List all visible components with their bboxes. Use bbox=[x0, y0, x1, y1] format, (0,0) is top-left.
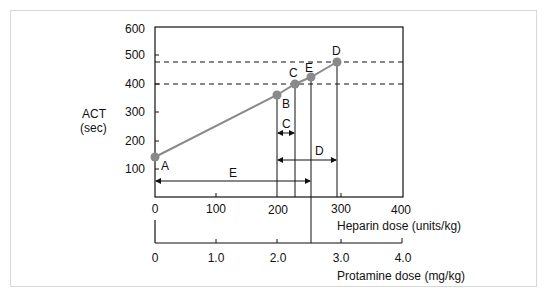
point-label-C: C bbox=[289, 66, 298, 80]
point-A bbox=[151, 153, 160, 162]
point-label-E: E bbox=[305, 61, 313, 75]
y-axis-title: ACT bbox=[82, 107, 107, 121]
interval-label-C: C bbox=[282, 117, 291, 131]
y-tick-100: 100 bbox=[125, 162, 145, 176]
heparin-axis-ticks: 0 100 200 300 400 bbox=[152, 202, 412, 217]
point-C bbox=[291, 80, 300, 89]
y-tick-300: 300 bbox=[125, 105, 145, 119]
plot-area bbox=[155, 27, 403, 197]
heparin-axis-title: Heparin dose (units/kg) bbox=[337, 219, 461, 233]
act-dose-response-diagram: A B C E D C D E 600 500 400 300 200 100 … bbox=[0, 0, 545, 297]
heparin-tick-400: 400 bbox=[391, 203, 411, 217]
heparin-tick-300: 300 bbox=[331, 202, 351, 216]
y-axis-ticks: 600 500 400 300 200 100 bbox=[125, 22, 145, 176]
interval-label-E: E bbox=[229, 166, 237, 180]
protamine-tick-2: 2.0 bbox=[270, 251, 287, 265]
protamine-tick-4: 4.0 bbox=[395, 251, 412, 265]
heparin-tick-200: 200 bbox=[268, 203, 288, 217]
interval-label-D: D bbox=[315, 144, 324, 158]
point-D bbox=[333, 58, 342, 67]
point-B bbox=[273, 91, 282, 100]
protamine-axis-title: Protamine dose (mg/kg) bbox=[337, 269, 465, 283]
point-label-D: D bbox=[332, 44, 341, 58]
y-tick-600: 600 bbox=[125, 22, 145, 36]
protamine-tick-3: 3.0 bbox=[333, 251, 350, 265]
point-label-B: B bbox=[282, 97, 290, 111]
protamine-tick-0: 0 bbox=[152, 251, 159, 265]
point-label-A: A bbox=[161, 159, 169, 173]
y-tick-400: 400 bbox=[125, 77, 145, 91]
heparin-tick-100: 100 bbox=[206, 202, 226, 216]
protamine-axis-ticks: 0 1.0 2.0 3.0 4.0 bbox=[152, 251, 412, 265]
heparin-tick-0: 0 bbox=[152, 202, 159, 216]
y-tick-500: 500 bbox=[125, 48, 145, 62]
y-axis-unit: (sec) bbox=[80, 121, 107, 135]
protamine-tick-1: 1.0 bbox=[208, 251, 225, 265]
y-tick-200: 200 bbox=[125, 134, 145, 148]
